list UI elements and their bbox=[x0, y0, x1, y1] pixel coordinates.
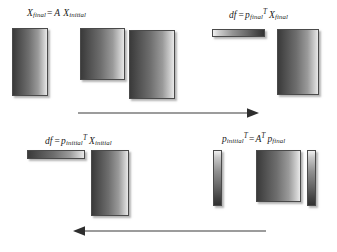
formula-var-df: df bbox=[228, 10, 238, 20]
formula-equals-sign: = bbox=[238, 10, 245, 20]
formula-df-equals-p-final-transpose-x-final: df=pfinalTXfinal bbox=[228, 9, 288, 21]
formula-var-x-final: Xfinal bbox=[267, 10, 288, 20]
p-final-column-block bbox=[307, 150, 316, 206]
formula-var-x-initial: Xinitial bbox=[61, 8, 86, 18]
formula-var-df: df bbox=[44, 136, 54, 146]
a-transpose-matrix-block bbox=[256, 150, 301, 202]
x-initial-column-block bbox=[91, 150, 129, 216]
a-matrix-block bbox=[80, 28, 125, 80]
p-final-transpose-row-block bbox=[212, 29, 265, 37]
formula-df-equals-p-initial-transpose-x-initial: df=pinitialTXinitial bbox=[44, 135, 112, 147]
formula-var-x-initial: Xinitial bbox=[87, 136, 112, 146]
x-initial-matrix-block bbox=[129, 30, 175, 99]
x-final-column-block bbox=[277, 29, 319, 95]
formula-var-x-final: Xfinal bbox=[27, 8, 46, 18]
formula-var-p-final-transpose: pfinalT bbox=[245, 10, 267, 20]
x-final-matrix-block bbox=[12, 28, 48, 96]
formula-var-a-transpose: AT bbox=[255, 134, 265, 144]
diagram-canvas: Xfinal=AXinitial df=pfinalTXfinal df=pin… bbox=[0, 0, 337, 252]
formula-equals-sign: = bbox=[54, 136, 61, 146]
formula-var-p-final: pfinal bbox=[265, 134, 285, 144]
p-initial-transpose-row-block bbox=[27, 150, 85, 159]
forward-flow-arrow bbox=[76, 106, 262, 120]
formula-x-final-equals-a-x-initial: Xfinal=AXinitial bbox=[27, 9, 86, 19]
formula-p-initial-transpose-equals-a-transpose-p-final: pinitialT=ATpfinal bbox=[222, 133, 285, 145]
formula-var-p-initial-transpose: pinitialT bbox=[61, 136, 87, 146]
adjoint-flow-arrow bbox=[70, 224, 270, 238]
p-initial-transpose-col-block bbox=[213, 150, 222, 206]
formula-var-p-initial-transpose: pinitialT bbox=[222, 134, 248, 144]
